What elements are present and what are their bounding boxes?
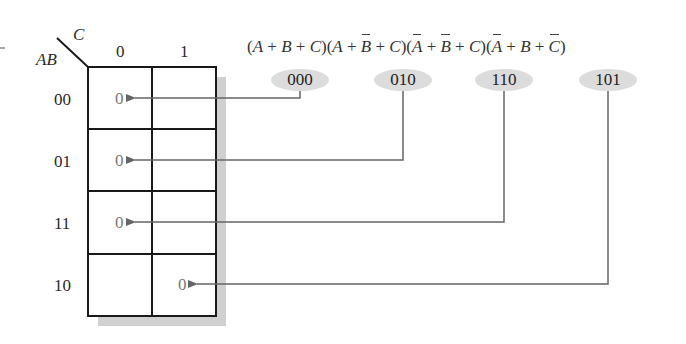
binary-code-110: 110 — [475, 69, 533, 91]
binary-code-000: 000 — [271, 69, 329, 91]
maxterm-101: (A + B + C) — [486, 37, 566, 56]
column-header-1: 1 — [180, 43, 189, 60]
pos-expression: (A + B + C)(A + B + C)(A + B + C)(A + B … — [247, 38, 566, 55]
row-header-01: 01 — [54, 153, 71, 170]
column-variable-label: C — [73, 26, 84, 43]
row-header-10: 10 — [54, 277, 71, 294]
column-header-0: 0 — [116, 43, 125, 60]
maxterm-110: (A + B + C) — [406, 37, 486, 56]
cell-01-0: 0 — [115, 152, 124, 169]
cell-00-0: 0 — [115, 90, 124, 107]
maxterm-010: (A + B + C) — [327, 37, 407, 56]
row-variable-label: AB — [36, 51, 57, 68]
cell-11-0: 0 — [115, 214, 124, 231]
row-header-11: 11 — [54, 215, 70, 232]
binary-code-010: 010 — [374, 69, 432, 91]
cell-10-1: 0 — [178, 276, 187, 293]
row-header-00: 00 — [54, 91, 71, 108]
maxterm-000: (A + B + C) — [247, 37, 327, 56]
binary-code-101: 101 — [579, 69, 637, 91]
